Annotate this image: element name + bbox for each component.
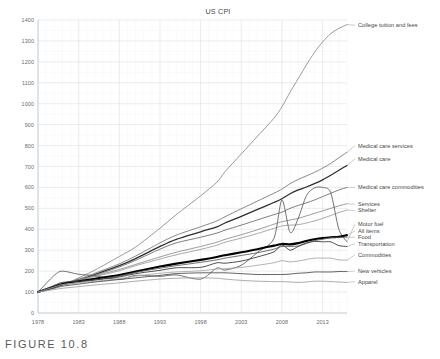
series-label: Medical care commodities xyxy=(358,184,424,190)
series-label: Motor fuel xyxy=(358,221,383,227)
series-label: College tuition and fees xyxy=(358,22,418,28)
series-leader-line xyxy=(347,146,355,153)
series-label: Services xyxy=(358,201,380,207)
y-tick-label: 1200 xyxy=(22,59,34,65)
x-tick-label: 2008 xyxy=(276,319,288,325)
y-tick-label: 1400 xyxy=(22,17,34,23)
us-cpi-line-chart: 0100200300400500600700800900100011001200… xyxy=(0,0,440,340)
series-label: Shelter xyxy=(358,207,376,213)
y-tick-label: 500 xyxy=(25,205,34,211)
series-leader-line xyxy=(347,159,355,165)
chart-title: US CPI xyxy=(205,7,230,16)
series-leader-line xyxy=(347,231,355,235)
y-tick-label: 100 xyxy=(25,289,34,295)
y-tick-label: 900 xyxy=(25,122,34,128)
series-leader-lines xyxy=(347,25,355,283)
series-leader-line xyxy=(347,25,355,26)
series-label: New vehicles xyxy=(358,268,392,274)
x-tick-label: 2013 xyxy=(316,319,328,325)
series-leader-line xyxy=(347,282,355,283)
series-label: Medical care xyxy=(358,156,390,162)
y-axis-tick-labels: 0100200300400500600700800900100011001200… xyxy=(22,17,34,316)
series-leader-line xyxy=(347,244,355,247)
y-tick-label: 1100 xyxy=(22,80,34,86)
series-leader-line xyxy=(347,255,355,260)
x-tick-label: 2003 xyxy=(235,319,247,325)
series-label: Apparel xyxy=(358,279,378,285)
y-tick-label: 1000 xyxy=(22,101,34,107)
y-tick-label: 800 xyxy=(25,143,34,149)
y-tick-label: 300 xyxy=(25,247,34,253)
y-tick-label: 0 xyxy=(31,310,34,316)
y-tick-label: 1300 xyxy=(22,38,34,44)
y-tick-label: 600 xyxy=(25,184,34,190)
series-label: Commodities xyxy=(358,252,391,258)
figure-container: 0100200300400500600700800900100011001200… xyxy=(0,0,440,359)
series-label: Transportation xyxy=(358,241,395,247)
y-tick-label: 200 xyxy=(25,268,34,274)
series-label: All items xyxy=(358,228,380,234)
series-labels: College tuition and feesMedical care ser… xyxy=(358,22,424,284)
series-label: Food xyxy=(358,234,371,240)
y-tick-label: 400 xyxy=(25,226,34,232)
x-axis-tick-labels: 19781983198819931998200320082013 xyxy=(32,319,329,325)
x-tick-label: 1983 xyxy=(72,319,84,325)
x-tick-label: 1993 xyxy=(154,319,166,325)
x-tick-label: 1998 xyxy=(194,319,206,325)
x-tick-label: 1988 xyxy=(113,319,125,325)
series-label: Medical care services xyxy=(358,143,413,149)
figure-caption: FIGURE 10.8 xyxy=(5,338,89,350)
x-tick-label: 1978 xyxy=(32,319,44,325)
y-tick-label: 700 xyxy=(25,164,34,170)
